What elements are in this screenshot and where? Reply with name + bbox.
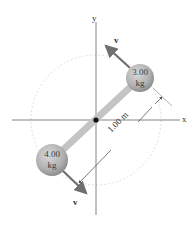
dimension-line-lower [79,150,111,183]
mass-label-lower: 4.00 kg [40,149,64,171]
pivot-point [93,117,98,122]
x-axis-label: x [182,115,187,124]
mass-value-upper: 3.00 [128,67,152,78]
velocity-arrow-lower [62,170,86,193]
dimension-arrowhead-top [155,97,162,104]
mass-label-upper: 3.00 kg [128,67,152,89]
velocity-arrow-upper [106,46,130,68]
rotating-dumbbell-diagram [0,0,195,228]
velocity-label-lower: v⃗ [73,198,85,207]
y-axis-label: y [92,14,97,23]
mass-unit-lower: kg [40,160,64,171]
mass-value-lower: 4.00 [40,149,64,160]
velocity-label-upper: v⃗ [114,36,126,45]
mass-unit-upper: kg [128,78,152,89]
